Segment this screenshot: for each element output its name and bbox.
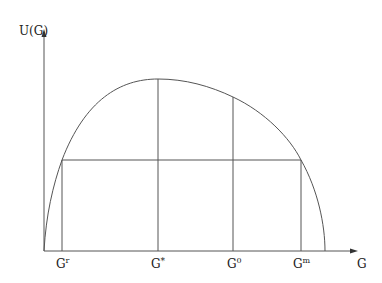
utility-curve (44, 79, 325, 251)
utility-diagram: U(G) G Gr G* G0 Gm (0, 0, 382, 283)
tick-label-g-m: Gm (293, 256, 311, 271)
tick-label-g-0: G0 (227, 256, 242, 271)
x-axis-arrow-icon (350, 249, 358, 254)
tick-label-g-star: G* (151, 256, 166, 271)
y-axis-label: U(G) (19, 24, 48, 38)
tick-label-g-r: Gr (56, 256, 70, 271)
x-axis-label: G (357, 257, 367, 271)
